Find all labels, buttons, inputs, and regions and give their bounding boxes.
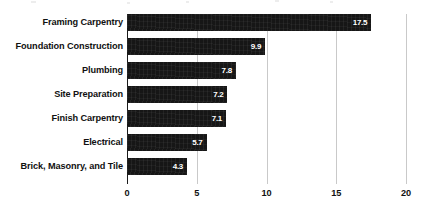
bar: 9.9 [127,38,265,55]
bar-row: 17.5 [127,14,406,31]
bar-row: 4.3 [127,158,406,175]
bar-row: 7.2 [127,86,406,103]
bar: 7.1 [127,110,226,127]
scan-artifact [31,1,36,3]
category-label: Brick, Masonry, and Tile [0,158,123,175]
bar-value-label: 5.7 [192,134,202,151]
value-axis-tick-labels: 0 5 10 15 20 [0,188,431,206]
bar-value-label: 9.9 [251,38,261,55]
bar: 7.8 [127,62,236,79]
bar-value-label: 4.3 [173,158,183,175]
bar-value-label: 7.2 [213,86,223,103]
bar: 17.5 [127,14,371,31]
plot-area: 17.5 9.9 7.8 7.2 7.1 5.7 [127,14,406,184]
category-label: Site Preparation [0,86,123,103]
x-tick-label: 15 [331,188,341,198]
x-tick-label: 10 [261,188,271,198]
category-label: Foundation Construction [0,38,123,55]
bar: 5.7 [127,134,207,151]
bar-value-label: 17.5 [353,14,367,31]
category-label: Framing Carpentry [0,14,123,31]
x-tick-label: 20 [401,188,411,198]
scan-artifact [127,2,130,4]
bar-value-label: 7.8 [222,62,232,79]
bar-row: 7.8 [127,62,406,79]
scan-artifact [275,0,279,2]
bar-row: 9.9 [127,38,406,55]
bar-chart: Framing Carpentry Foundation Constructio… [0,0,431,210]
x-tick-label: 5 [194,188,199,198]
scan-artifact [186,1,189,3]
x-tick-label: 0 [124,188,129,198]
bar-row: 5.7 [127,134,406,151]
bar-value-label: 7.1 [212,110,222,127]
scan-artifact [330,1,333,3]
bar-row: 7.1 [127,110,406,127]
category-axis-labels: Framing Carpentry Foundation Constructio… [0,14,123,184]
gridline [406,14,407,184]
bar: 7.2 [127,86,227,103]
category-label: Plumbing [0,62,123,79]
bar: 4.3 [127,158,187,175]
category-label: Electrical [0,134,123,151]
category-label: Finish Carpentry [0,110,123,127]
